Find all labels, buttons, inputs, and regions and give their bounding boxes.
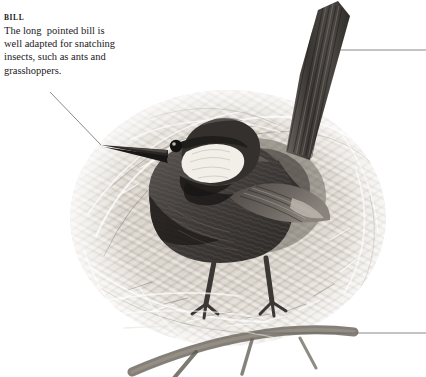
illustration-plate: BILL The long pointed bill is well adapt… [0, 0, 426, 377]
callout-line-3: insects, such as ants and [4, 50, 132, 63]
callout-heading: BILL [4, 12, 132, 23]
callout-line-4: grasshoppers. [4, 64, 132, 77]
callout-line-1: The long pointed bill is [4, 24, 132, 37]
callout-body: The long pointed bill is well adapted fo… [4, 24, 132, 77]
callout-line-2: well adapted for snatching [4, 37, 132, 50]
bird-eye [170, 140, 182, 152]
bill-callout: BILL The long pointed bill is well adapt… [4, 12, 132, 77]
twig-perch [132, 330, 354, 377]
